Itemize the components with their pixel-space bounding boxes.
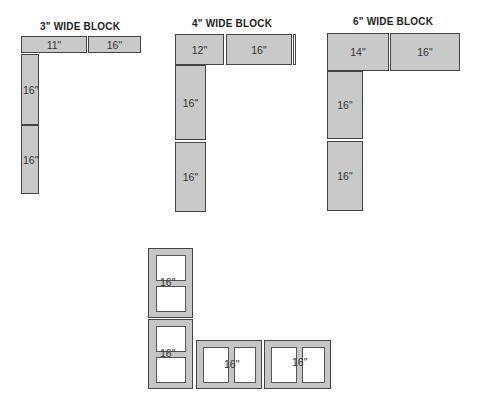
block-column-lower: 16" xyxy=(21,125,39,194)
hollow-label: 16" xyxy=(160,347,175,359)
group-title: 6" WIDE BLOCK xyxy=(353,16,433,27)
hollow-label: 16" xyxy=(292,356,307,368)
hollow-cell xyxy=(156,286,186,312)
hollow-label: 16" xyxy=(160,276,175,288)
hollow-label: 16" xyxy=(224,358,239,370)
block-top-left: 12" xyxy=(175,34,224,65)
hollow-cell xyxy=(156,357,186,383)
block-column-lower: 16" xyxy=(327,141,363,211)
block-top-right: 16" xyxy=(88,36,141,53)
block-column-upper: 16" xyxy=(175,65,206,140)
block-column-upper: 16" xyxy=(327,71,363,139)
block-top-left: 11" xyxy=(21,36,87,53)
block-top-left: 14" xyxy=(327,33,389,71)
block-column-lower: 16" xyxy=(175,142,206,212)
block-column-upper: 16" xyxy=(21,54,39,125)
block-top-right: 16" xyxy=(226,34,292,65)
block-top-edge xyxy=(293,34,296,65)
group-title: 4" WIDE BLOCK xyxy=(192,18,272,29)
block-top-right: 16" xyxy=(390,33,460,71)
group-title: 3" WIDE BLOCK xyxy=(40,21,120,32)
